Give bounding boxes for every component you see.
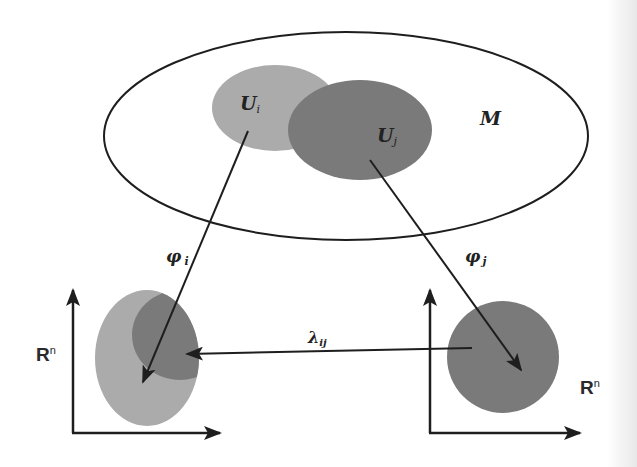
open-set-uj xyxy=(288,80,432,180)
label-rn-right: Rn xyxy=(580,377,600,398)
right-chart-region xyxy=(447,301,559,413)
page-edge-shadow xyxy=(607,0,637,467)
label-rn-left: Rn xyxy=(36,344,56,365)
label-lambda-ij: λij xyxy=(307,328,327,348)
left-chart-dark-region xyxy=(132,290,228,380)
manifold-diagram: Ui Uj M φi φj λij Rn Rn xyxy=(0,0,637,467)
label-phi-j: φj xyxy=(465,246,486,268)
label-m: M xyxy=(479,107,502,129)
label-phi-i: φi xyxy=(166,246,189,268)
arrow-phi-j xyxy=(370,160,521,370)
